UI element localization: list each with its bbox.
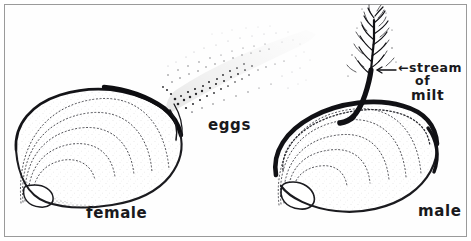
female-shell-group — [14, 86, 190, 212]
egg-cloud — [162, 26, 316, 113]
label-milt-line-3: milt — [411, 88, 462, 102]
figure-root: female male eggs ←stream of milt — [0, 0, 471, 241]
label-milt-line-2: of — [415, 75, 462, 88]
male-shell-group — [274, 98, 444, 216]
label-stream-of-milt: ←stream of milt — [398, 62, 462, 102]
egg-cloud-envelope — [166, 30, 316, 112]
label-female: female — [86, 206, 147, 221]
milt-filaments — [347, 5, 394, 72]
label-eggs: eggs — [208, 118, 251, 133]
label-male: male — [418, 204, 461, 219]
label-milt-line-1: ←stream — [398, 62, 462, 75]
